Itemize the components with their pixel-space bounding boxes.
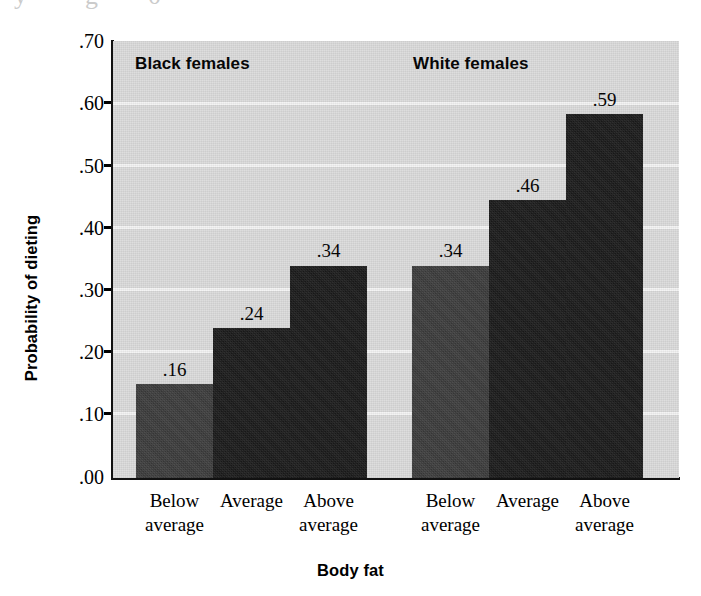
y-tick-label-00: .00 bbox=[52, 467, 104, 487]
bar-white-average bbox=[489, 200, 566, 478]
bar-value-black-below-average: .16 bbox=[136, 359, 213, 381]
bar-black-below-average bbox=[136, 384, 213, 478]
bar-value-white-below-average: .34 bbox=[412, 240, 489, 262]
bar-value-black-above-average: .34 bbox=[290, 240, 367, 262]
y-tick-label-50: .50 bbox=[52, 156, 104, 176]
y-tick-label-40: .40 bbox=[52, 218, 104, 238]
x-tick-label-white-below-average: Below average bbox=[412, 489, 489, 538]
group-title-white-females: White females bbox=[413, 54, 529, 74]
bar-value-white-average: .46 bbox=[489, 175, 566, 197]
bar-white-below-average bbox=[412, 266, 489, 478]
x-tick-label-black-average: Average bbox=[213, 489, 290, 513]
scan-artifact-glyph: 0 bbox=[148, 0, 161, 11]
y-axis-tick-labels: .70 .60 .50 .40 .30 .20 .10 .00 bbox=[52, 0, 104, 596]
scan-artifact-glyph: y bbox=[14, 0, 27, 11]
y-tick-label-70: .70 bbox=[52, 31, 104, 51]
plot-area: Black females White females .16 .24 .34 … bbox=[113, 41, 679, 478]
y-tick-label-10: .10 bbox=[52, 404, 104, 424]
x-tick-label-black-below-average: Below average bbox=[136, 489, 213, 538]
bar-black-above-average bbox=[290, 266, 367, 478]
y-tick-label-60: .60 bbox=[52, 93, 104, 113]
bar-value-white-above-average: .59 bbox=[566, 89, 643, 111]
group-title-black-females: Black females bbox=[135, 54, 250, 74]
x-axis-title: Body fat bbox=[0, 561, 701, 580]
x-tick-label-white-average: Average bbox=[489, 489, 566, 513]
y-tick-label-20: .20 bbox=[52, 342, 104, 362]
y-tick-label-30: .30 bbox=[52, 280, 104, 300]
bar-white-above-average bbox=[566, 114, 643, 478]
scan-artifact-strip: y g 0 bbox=[0, 0, 701, 14]
y-axis-title-text: Probability of dieting bbox=[22, 215, 41, 381]
x-tick-label-black-above-average: Above average bbox=[290, 489, 367, 538]
bar-black-average bbox=[213, 328, 290, 478]
bar-value-black-average: .24 bbox=[213, 303, 290, 325]
x-tick-label-white-above-average: Above average bbox=[566, 489, 643, 538]
